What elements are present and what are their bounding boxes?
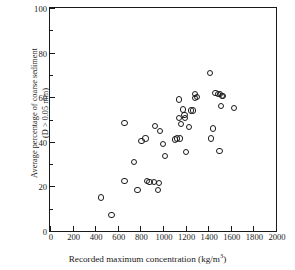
x-tick-label: 1600: [223, 233, 240, 242]
x-tick-major: 800: [140, 226, 141, 231]
x-tick-label: 1000: [155, 233, 172, 242]
y-tick-minor: [50, 209, 53, 210]
data-point: [121, 178, 127, 184]
y-tick-label: 100: [34, 5, 47, 14]
x-tick-major: 200: [73, 226, 74, 231]
data-point: [190, 107, 196, 113]
data-point: [157, 128, 163, 134]
data-point: [186, 124, 192, 130]
y-tick-label: 80: [38, 49, 47, 58]
data-point: [194, 94, 200, 100]
data-point: [218, 103, 224, 109]
y-tick-major: 60: [50, 97, 55, 98]
x-tick-label: 1400: [201, 233, 218, 242]
data-point: [177, 135, 183, 141]
y-tick-label: 0: [43, 228, 47, 237]
data-point: [156, 180, 162, 186]
data-point: [121, 120, 127, 126]
x-axis-title-tail: ): [223, 254, 226, 264]
x-axis-title-text: Recorded maximum concentration (kg/m: [69, 254, 220, 264]
y-tick-minor: [50, 30, 53, 31]
x-tick-label: 400: [90, 233, 103, 242]
x-tick-major: 0: [50, 226, 51, 231]
x-tick-major: 1800: [253, 226, 254, 231]
data-point: [208, 135, 214, 141]
y-tick-major: 40: [50, 142, 55, 143]
x-tick-major: 1600: [231, 226, 232, 231]
data-point: [134, 187, 140, 193]
x-tick-major: 2000: [276, 226, 277, 231]
data-point: [220, 93, 226, 99]
x-tick-label: 1200: [178, 233, 195, 242]
y-tick-label: 20: [38, 183, 47, 192]
y-tick-major: 100: [50, 8, 55, 9]
y-tick-label: 40: [38, 139, 47, 148]
x-tick-label: 600: [112, 233, 125, 242]
x-tick-label: 1800: [246, 233, 263, 242]
data-point: [142, 135, 148, 141]
data-point: [216, 148, 222, 154]
x-tick-label: 0: [49, 233, 53, 242]
data-point: [155, 187, 161, 193]
data-point: [160, 141, 166, 147]
x-axis-title: Recorded maximum concentration (kg/m3): [0, 250, 295, 265]
x-tick-label: 200: [67, 233, 80, 242]
plot-area: 020406080100 020040060080010001200140016…: [49, 7, 277, 232]
data-point: [176, 96, 182, 102]
y-tick-major: 20: [50, 186, 55, 187]
data-point: [131, 159, 137, 165]
data-point: [207, 70, 213, 76]
x-tick-label: 2000: [268, 233, 285, 242]
x-tick-major: 1000: [163, 226, 164, 231]
x-tick-major: 1200: [186, 226, 187, 231]
x-tick-major: 600: [118, 226, 119, 231]
y-tick-minor: [50, 164, 53, 165]
x-tick-label: 800: [135, 233, 148, 242]
x-tick-major: 1400: [208, 226, 209, 231]
data-point: [210, 125, 216, 131]
data-point: [178, 121, 184, 127]
x-tick-major: 400: [95, 226, 96, 231]
data-point: [231, 105, 237, 111]
data-point: [183, 149, 189, 155]
data-point: [98, 194, 104, 200]
y-tick-minor: [50, 75, 53, 76]
y-axis-title-container: Average percentage of coarse sediment (D…: [0, 0, 46, 232]
y-tick-major: 80: [50, 53, 55, 54]
data-point: [108, 212, 114, 218]
y-tick-minor: [50, 120, 53, 121]
scatter-chart-figure: Average percentage of coarse sediment (D…: [0, 0, 295, 270]
data-point: [182, 115, 188, 121]
data-point: [162, 153, 168, 159]
y-tick-label: 60: [38, 94, 47, 103]
